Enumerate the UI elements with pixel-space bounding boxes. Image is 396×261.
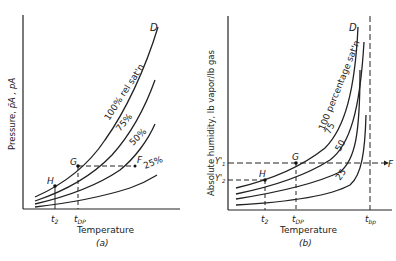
- ytick-y1-b: Y'1: [215, 157, 226, 167]
- label-d-a: D: [150, 22, 158, 33]
- ytick-y2-b: Y'2: [215, 174, 226, 184]
- curve-100-a: [35, 27, 158, 197]
- label-d-b: D: [349, 22, 357, 33]
- curve-label-25-a: 25%: [142, 154, 165, 171]
- x-label-b: Temperature: [279, 225, 337, 235]
- tick-tdp-a: tDP: [74, 214, 86, 225]
- curve-label-25-b: 25: [333, 167, 348, 182]
- caption-a: (a): [96, 238, 109, 248]
- y-label-a: Pressure, p̄A , pA: [7, 78, 17, 150]
- caption-b: (b): [299, 238, 312, 248]
- tick-t2-b: t2: [261, 214, 269, 225]
- tick-tdp-b: tDP: [292, 214, 304, 225]
- label-f-b: F: [388, 159, 394, 169]
- label-g-b: G: [292, 152, 299, 162]
- psychrometric-diagrams: D G H F 100% rel sat'n 75% 50% 25% Press…: [0, 0, 396, 261]
- figure-b: D G H F 100 percentage sat'n 75 50 25 Ab…: [206, 16, 394, 248]
- label-h-b: H: [259, 169, 266, 179]
- tick-tbp-b: tbp: [365, 214, 376, 226]
- x-label-a: Temperature: [76, 225, 134, 235]
- curve-25-b: [236, 115, 366, 205]
- tick-t2-a: t2: [51, 214, 59, 225]
- curve-label-100-b: 100 percentage sat'n: [317, 39, 362, 132]
- figure-a: D G H F 100% rel sat'n 75% 50% 25% Press…: [7, 15, 180, 248]
- label-h-a: H: [47, 176, 54, 186]
- label-g-a: G: [70, 157, 77, 167]
- curve-label-50-a: 50%: [127, 126, 149, 148]
